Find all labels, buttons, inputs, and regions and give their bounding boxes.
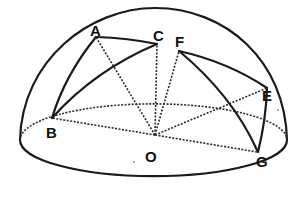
arc-f-e: [179, 51, 267, 88]
arc-f-g: [179, 51, 257, 150]
label-b: B: [46, 124, 57, 141]
label-e: E: [262, 87, 272, 104]
label-o: O: [145, 148, 157, 165]
radius-o-f: [155, 51, 179, 135]
arc-a-c: [96, 37, 157, 44]
radius-o-b: [52, 118, 155, 135]
label-c: C: [153, 27, 164, 44]
speck: [277, 109, 279, 111]
label-a: A: [90, 22, 101, 39]
radius-o-c: [155, 44, 157, 135]
hemisphere-diagram: A B C E F G O: [0, 0, 307, 205]
radius-o-a: [96, 37, 155, 135]
radius-o-g: [155, 135, 257, 152]
speck: [133, 161, 135, 163]
radius-o-e: [155, 88, 267, 135]
speck: [45, 161, 47, 163]
label-f: F: [175, 33, 184, 50]
label-g: G: [256, 153, 268, 170]
